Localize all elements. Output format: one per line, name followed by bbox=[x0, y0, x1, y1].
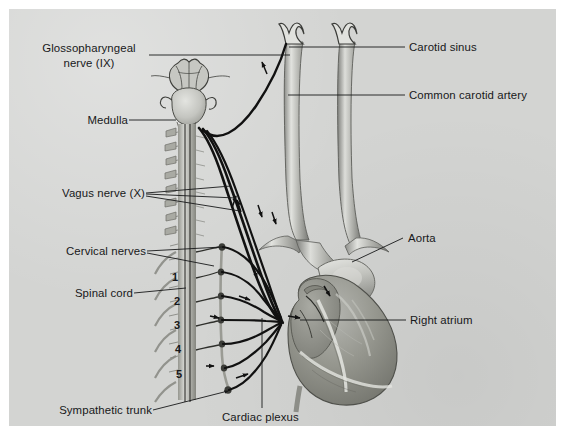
label-cervical-nerves: Cervical nerves bbox=[30, 244, 146, 259]
label-aorta: Aorta bbox=[408, 231, 436, 246]
right-common-carotid-artery bbox=[284, 42, 309, 240]
glossopharyngeal-nerve bbox=[203, 44, 286, 136]
label-glossopharyngeal: Glossopharyngeal nerve (IX) bbox=[28, 41, 150, 70]
cardiac-sympathetic-fibers bbox=[222, 247, 281, 390]
segment-number-2: 2 bbox=[174, 295, 180, 307]
label-cardiac-plexus: Cardiac plexus bbox=[222, 410, 299, 425]
segment-number-1: 1 bbox=[172, 271, 178, 283]
left-common-carotid-artery bbox=[338, 42, 362, 244]
segment-number-5: 5 bbox=[176, 368, 182, 380]
left-carotid-sinus bbox=[332, 23, 357, 44]
segment-number-3: 3 bbox=[174, 319, 180, 331]
label-sympathetic-trunk: Sympathetic trunk bbox=[20, 403, 152, 418]
segment-number-4: 4 bbox=[175, 343, 181, 355]
carotid-sinus bbox=[279, 23, 304, 44]
medulla bbox=[172, 88, 207, 125]
label-vagus-nerve: Vagus nerve (X) bbox=[30, 186, 145, 201]
carotid-arteries bbox=[259, 23, 389, 272]
label-common-carotid-artery: Common carotid artery bbox=[409, 88, 527, 103]
label-right-atrium: Right atrium bbox=[410, 313, 473, 328]
label-medulla: Medulla bbox=[40, 113, 128, 128]
anatomy-figure: Glossopharyngeal nerve (IX) Medulla Vagu… bbox=[0, 0, 566, 441]
label-carotid-sinus: Carotid sinus bbox=[409, 40, 477, 55]
label-glossopharyngeal-line2: nerve (IX) bbox=[63, 57, 114, 69]
label-spinal-cord: Spinal cord bbox=[40, 286, 133, 301]
label-glossopharyngeal-line1: Glossopharyngeal bbox=[42, 42, 135, 54]
heart bbox=[288, 275, 397, 412]
